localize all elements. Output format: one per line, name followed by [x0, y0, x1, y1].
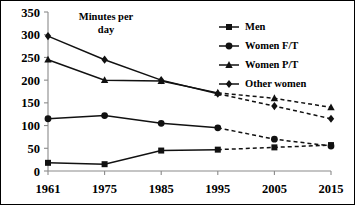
series-line-solid: [48, 116, 218, 128]
y-axis-tick-labels: 050100150200250300350: [21, 6, 40, 179]
y-tick-label: 100: [21, 119, 40, 133]
data-point-marker-circle: [158, 120, 165, 127]
chart-legend: MenWomen F/TWomen P/TOther women: [219, 21, 306, 89]
legend-label: Women F/T: [245, 40, 298, 51]
legend-label: Women P/T: [245, 59, 298, 70]
data-point-marker-triangle: [271, 94, 278, 101]
y-tick-label: 300: [21, 28, 40, 42]
x-tick-label: 1961: [36, 182, 61, 196]
legend-item-other-women[interactable]: Other women: [219, 78, 306, 89]
data-point-marker-circle: [271, 136, 278, 143]
x-tick-label: 1985: [149, 182, 174, 196]
data-point-marker-circle: [45, 115, 52, 122]
data-point-marker-circle: [214, 124, 221, 131]
line-chart-figure: 050100150200250300350 196119751985199520…: [0, 0, 355, 205]
data-point-marker-square: [102, 161, 108, 167]
data-point-marker-triangle: [44, 56, 51, 63]
series-men: [45, 142, 334, 167]
y-tick-label: 150: [21, 96, 40, 110]
data-point-marker-diamond: [215, 90, 221, 98]
x-axis-tick-labels: 196119751985199520052015: [36, 182, 344, 196]
data-point-marker-square: [215, 147, 221, 153]
y-axis: 050100150200250300350: [21, 6, 48, 179]
data-point-marker-diamond: [101, 56, 107, 64]
data-point-marker-diamond: [226, 80, 232, 88]
data-point-marker-triangle: [327, 103, 334, 110]
x-tick-label: 1975: [92, 182, 117, 196]
data-point-marker-diamond: [328, 115, 334, 123]
series-line-solid: [48, 150, 218, 165]
data-point-marker-circle: [101, 112, 108, 119]
axis-note: Minutes per day: [79, 11, 134, 35]
data-point-marker-diamond: [271, 102, 277, 110]
y-tick-label: 350: [21, 6, 40, 20]
y-tick-label: 250: [21, 51, 40, 65]
legend-label: Other women: [245, 78, 306, 89]
chart-canvas: 050100150200250300350 196119751985199520…: [1, 1, 355, 205]
legend-item-women-p-t[interactable]: Women P/T: [219, 59, 298, 70]
series-women-f-t: [45, 112, 335, 149]
data-point-marker-square: [226, 24, 232, 30]
data-point-marker-circle: [226, 43, 233, 50]
y-tick-label: 50: [28, 142, 41, 156]
data-point-marker-diamond: [45, 32, 51, 40]
series-line-solid: [48, 36, 218, 94]
x-axis: 196119751985199520052015: [36, 171, 344, 196]
x-tick-label: 1995: [205, 182, 230, 196]
data-point-marker-circle: [328, 143, 335, 150]
x-axis-ticks: [48, 171, 331, 175]
legend-item-men[interactable]: Men: [219, 21, 266, 32]
axis-note-line-2: day: [98, 24, 115, 35]
data-point-marker-square: [158, 148, 164, 154]
y-tick-label: 200: [21, 74, 40, 88]
x-tick-label: 2005: [262, 182, 287, 196]
data-point-marker-square: [271, 144, 277, 150]
legend-item-women-f-t[interactable]: Women F/T: [219, 40, 298, 51]
data-point-marker-square: [45, 160, 51, 166]
axis-note-line-1: Minutes per: [79, 11, 134, 22]
legend-label: Men: [245, 21, 266, 32]
series-layer: [44, 32, 334, 167]
x-tick-label: 2015: [319, 182, 344, 196]
y-tick-label: 0: [34, 165, 40, 179]
